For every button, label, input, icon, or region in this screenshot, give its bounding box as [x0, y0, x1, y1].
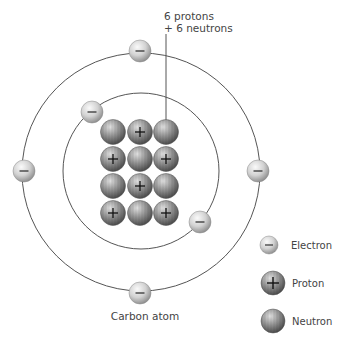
- neutron: [128, 201, 153, 226]
- carbon-atom-diagram: 6 protons + 6 neutrons Carbon atom Elect…: [0, 0, 342, 346]
- outer-shell-orbit: [22, 53, 260, 291]
- electron-outer: [247, 160, 269, 182]
- legend-label-electron: Electron: [291, 240, 332, 251]
- electron-inner: [189, 211, 211, 233]
- proton: [101, 201, 126, 226]
- electron-inner: [81, 101, 103, 123]
- proton: [154, 201, 179, 226]
- neutron: [154, 120, 179, 145]
- proton: [101, 147, 126, 172]
- nucleus-label-protons: 6 protons: [164, 10, 214, 22]
- legend-item-proton: Proton: [261, 271, 324, 295]
- legend: Electron Proton Neutron: [260, 236, 332, 333]
- proton: [154, 147, 179, 172]
- legend-item-electron: Electron: [260, 236, 332, 254]
- nucleus-label-neutrons: + 6 neutrons: [164, 22, 233, 34]
- legend-item-neutron: Neutron: [261, 309, 332, 333]
- neutron: [154, 174, 179, 199]
- diagram-title: Carbon atom: [111, 310, 179, 322]
- proton: [128, 120, 153, 145]
- orbits: [22, 53, 260, 291]
- proton: [128, 174, 153, 199]
- neutron: [128, 147, 153, 172]
- electrons: [13, 40, 269, 304]
- neutron: [101, 174, 126, 199]
- nucleus: [101, 120, 179, 226]
- legend-label-neutron: Neutron: [292, 316, 332, 327]
- electron-outer: [129, 282, 151, 304]
- legend-label-proton: Proton: [292, 278, 324, 289]
- neutron: [101, 120, 126, 145]
- electron-outer: [13, 160, 35, 182]
- electron-outer: [129, 40, 151, 62]
